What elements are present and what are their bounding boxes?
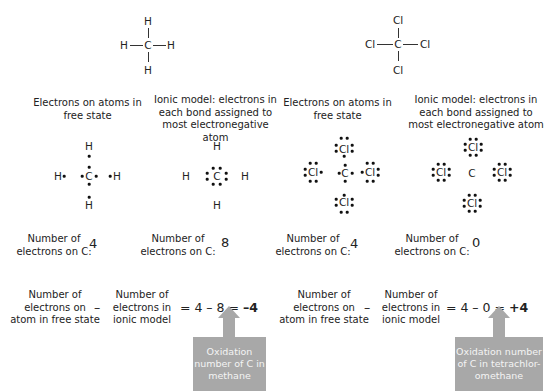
electron-dot [109,175,112,178]
callout-line: methane [194,370,265,382]
label-line: electrons on C: [14,246,94,259]
electron-dot [212,167,215,170]
atom-c: C [468,167,475,179]
electron-dot [343,194,346,197]
atom-h-left: H [54,170,62,182]
electron-dot [344,164,347,167]
electron-dot [206,172,209,175]
electron-dot [504,179,507,182]
atom-h-bottom: H [213,199,221,211]
methane-ionic-count-label: Number of electrons on C: [138,233,218,258]
methane-free-count: 4 [89,236,97,251]
ccl4-term-free-state: Number of electrons on atom in free stat… [279,289,369,327]
electron-dot [498,163,501,166]
ccl4-oxidation-callout: Oxidation number of C in tetrachlor- ome… [455,337,543,391]
header-ccl4-free-state: Electrons on atoms in free state [270,97,405,122]
electron-dot [469,138,472,141]
label-line: Number of [392,233,472,246]
electron-dot [315,162,318,165]
label-line: electrons in [381,302,441,315]
methane-term-ionic: Number of electrons in ionic model [112,289,172,327]
atom-c: C [144,39,151,51]
electron-dot [443,163,446,166]
atom-c: C [394,38,401,50]
electron-dot [344,180,347,183]
electron-dot [351,172,354,175]
electron-dot [475,154,478,157]
electron-dot [309,180,312,183]
header-line: Ionic model: electrons in [148,94,283,107]
oxidation-result: +4 [509,300,528,315]
label-line: ionic model [112,314,172,327]
label-line: electrons on [279,302,369,315]
electron-dot [509,168,512,171]
electron-dot [377,168,380,171]
atom-h-left: H [182,170,190,182]
electron-dot [88,183,91,186]
methane-ionic-count: 8 [221,235,229,250]
electron-dot [493,168,496,171]
electron-dot [377,174,380,177]
electron-dot [475,138,478,141]
header-line: most electronegative atom [405,119,546,132]
electron-dot [479,199,482,202]
label-line: Number of [112,289,172,302]
header-line: each bond assigned to [405,107,546,120]
electron-dot [335,204,338,207]
ccl4-term-ionic: Number of electrons in ionic model [381,289,441,327]
electron-dot [335,144,338,147]
electron-dot [351,204,354,207]
electron-dot [88,196,91,199]
electron-dot [343,155,346,158]
bond-line [153,45,166,46]
methane-oxidation-callout: Oxidation number of C in methane [193,337,266,391]
atom-cl-right: Cl [420,38,430,50]
header-methane-ionic: Ionic model: electrons in each bond assi… [148,94,283,144]
atom-cl-right: Cl [365,166,375,178]
callout-line: Oxidation number [456,346,542,358]
atom-cl-left: Cl [365,38,375,50]
electron-dot [366,162,369,165]
electron-dot [340,137,343,140]
electron-dot [315,180,318,183]
header-line: free state [270,110,405,123]
electron-dot [63,175,66,178]
atom-cl-bottom: Cl [393,64,403,76]
electron-dot [309,162,312,165]
bond-line [398,28,399,38]
callout-line: number of C in [194,358,265,370]
callout-line: omethane [456,370,542,382]
header-line: Electrons on atoms in [20,97,155,110]
header-methane-free-state: Electrons on atoms in free state [20,97,155,122]
ccl4-ionic-count: 0 [472,235,480,250]
label-line: atom in free state [10,314,100,327]
electron-dot [474,194,477,197]
bond-line [148,52,149,62]
atom-cl-top: Cl [339,143,349,155]
electron-dot [88,155,91,158]
label-line: Number of [273,233,353,246]
electron-dot [361,171,364,174]
electron-dot [443,179,446,182]
electron-dot [304,168,307,171]
atom-cl-left: Cl [436,166,446,178]
electron-dot [81,175,84,178]
atom-c: C [341,167,348,179]
electron-dot [212,183,215,186]
atom-h-top: H [85,140,93,152]
label-line: electrons on C: [273,246,353,259]
ccl4-free-count: 4 [350,236,358,251]
label-line: electrons on C: [138,246,218,259]
atom-cl-right: Cl [497,166,507,178]
bond-line [403,44,418,45]
electron-dot [432,168,435,171]
label-line: electrons on [10,302,100,315]
electron-dot [335,150,338,153]
electron-dot [95,175,98,178]
electron-dot [474,210,477,213]
methane-free-count-label: Number of electrons on C: [14,233,94,258]
electron-dot [498,179,501,182]
electron-dot [509,174,512,177]
bond-line [377,44,393,45]
methane-term-free-state: Number of electrons on atom in free stat… [10,289,100,327]
